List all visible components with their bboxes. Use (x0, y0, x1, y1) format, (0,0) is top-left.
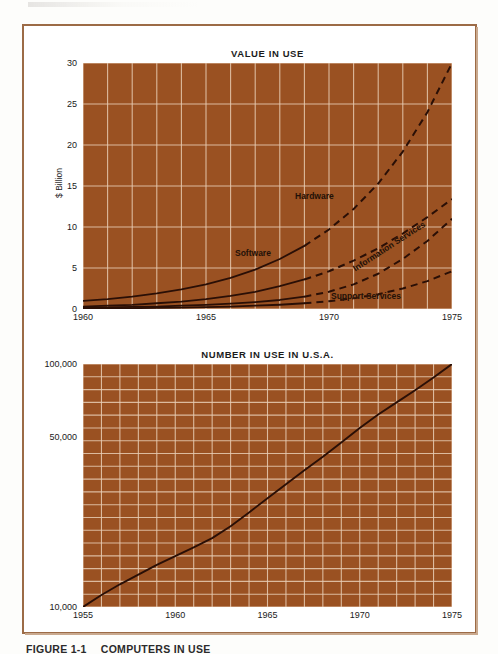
x-tick-label: 1955 (61, 610, 105, 620)
chart-value-in-use: VALUE IN USE 051015202530 19601965197019… (83, 63, 452, 309)
plot-canvas-value-in-use (83, 63, 452, 309)
y-tick-label: 100,000 (21, 359, 77, 369)
y-tick-label: 20 (21, 140, 77, 150)
figure-caption-number: FIGURE 1-1 (26, 643, 87, 654)
scan-artifact (28, 2, 198, 7)
x-tick-label: 1960 (153, 610, 197, 620)
chart-number-in-use: NUMBER IN USE IN U.S.A. 10,00050,000100,… (83, 364, 452, 607)
y-tick-label: 15 (21, 181, 77, 191)
figure-frame: VALUE IN USE 051015202530 19601965197019… (22, 24, 477, 634)
chart-title-number-in-use: NUMBER IN USE IN U.S.A. (83, 349, 452, 360)
plot-area-value-in-use (83, 63, 452, 309)
y-tick-label: 5 (21, 263, 77, 273)
y-tick-label: 10 (21, 222, 77, 232)
figure-caption-text: COMPUTERS IN USE (101, 643, 211, 654)
y-axis-label-value-in-use: $ Billion (54, 143, 64, 223)
y-tick-label: 25 (21, 99, 77, 109)
x-tick-label: 1970 (307, 312, 351, 322)
y-tick-label: 30 (21, 58, 77, 68)
figure-caption: FIGURE 1-1COMPUTERS IN USE (26, 643, 211, 654)
y-tick-label: 50,000 (21, 432, 77, 442)
x-tick-label: 1970 (338, 610, 382, 620)
x-tick-label: 1975 (430, 610, 474, 620)
x-tick-label: 1965 (246, 610, 290, 620)
series-label-hardware: Hardware (295, 191, 334, 201)
x-tick-label: 1965 (184, 312, 228, 322)
plot-area-number-in-use (83, 364, 452, 607)
plot-canvas-number-in-use (83, 364, 452, 607)
x-tick-label: 1975 (430, 312, 474, 322)
series-label-software: Software (235, 248, 271, 258)
chart-title-value-in-use: VALUE IN USE (83, 48, 452, 59)
series-label-support-services: Support Services (331, 291, 401, 301)
x-tick-label: 1960 (61, 312, 105, 322)
